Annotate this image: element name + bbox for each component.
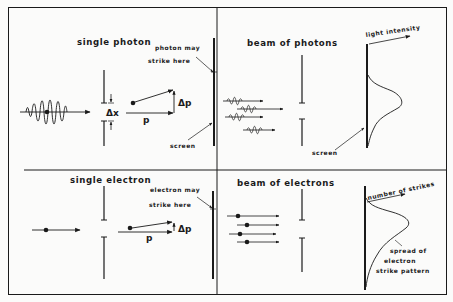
intensity-curve — [368, 75, 402, 146]
strike-label-line2: strike here — [148, 57, 190, 64]
panel-beam-of-photons: beam of photons — [223, 23, 421, 156]
slit — [101, 186, 107, 279]
delta-p-label: Δp — [178, 224, 192, 234]
photon-beam — [223, 97, 283, 134]
strike-label-line1: photon may — [155, 44, 200, 52]
panel-single-electron: single electron p Δp electron may strike… — [32, 175, 216, 279]
screen-pointer-arrow — [335, 128, 364, 150]
momentum-vector-diagram — [118, 222, 174, 232]
uncertainty-diagram: single photon Δx p Δp — [0, 0, 453, 302]
strike-label-line2: strike here — [149, 201, 191, 208]
slit — [299, 189, 305, 272]
panel-title: single electron — [70, 175, 151, 185]
strike-pointer-arrow — [197, 197, 212, 208]
panel-title: single photon — [77, 37, 151, 47]
strike-pointer-arrow — [196, 57, 213, 72]
electron-beam — [227, 214, 279, 245]
spread-label-line2: electron — [384, 257, 416, 264]
figure-frame — [9, 7, 448, 295]
screen-label: screen — [170, 142, 196, 149]
delta-p-label: Δp — [178, 98, 192, 108]
panel-single-photon: single photon Δx p Δp — [20, 37, 217, 149]
panel-title: beam of photons — [247, 38, 338, 48]
spread-pointer — [395, 240, 402, 246]
photon-wave-packet — [20, 100, 90, 124]
spread-label-line1: spread of — [390, 247, 427, 255]
incoming-electron — [32, 228, 80, 233]
axis-label: number of strikes — [367, 180, 435, 201]
momentum-vector-diagram — [126, 90, 174, 113]
axis-label: light intensity — [365, 23, 421, 39]
panel-beam-of-electrons: beam of electrons number of strikes spre… — [227, 178, 435, 290]
intensity-axis-arrow — [369, 36, 410, 44]
panel-title: beam of electrons — [237, 178, 335, 188]
p-label: p — [146, 233, 153, 243]
screen-label: screen — [312, 149, 338, 156]
strike-label-line1: electron may — [150, 186, 200, 194]
p-label: p — [143, 115, 150, 125]
spread-label-line3: strike pattern — [376, 267, 430, 275]
screen-pointer-arrow — [188, 123, 212, 140]
slit — [299, 55, 305, 146]
delta-x-label: Δx — [106, 108, 119, 118]
